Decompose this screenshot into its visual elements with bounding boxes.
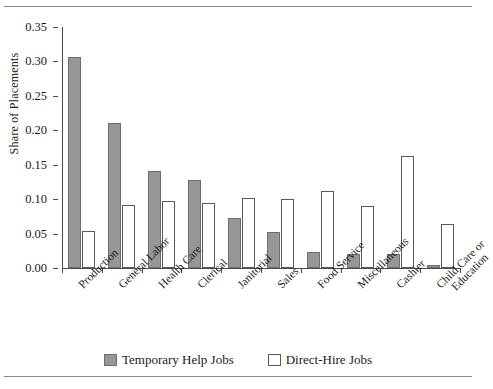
bar-direct[interactable] bbox=[82, 231, 95, 268]
bar-direct[interactable] bbox=[281, 199, 294, 268]
legend-swatch-direct bbox=[268, 354, 281, 366]
y-tick-mark bbox=[53, 96, 58, 97]
bar-group bbox=[380, 14, 420, 268]
y-tick-mark bbox=[53, 234, 58, 235]
bar-series-container bbox=[62, 14, 460, 268]
y-tick-label: 0.35 bbox=[25, 21, 47, 34]
y-tick-mark bbox=[53, 165, 58, 166]
y-tick-label: 0.10 bbox=[25, 193, 47, 206]
bottom-divider-rule bbox=[4, 376, 472, 377]
chart-legend: Temporary Help JobsDirect-Hire Jobs bbox=[0, 352, 476, 368]
y-tick-mark bbox=[53, 61, 58, 62]
bar-group bbox=[181, 14, 221, 268]
legend-label: Temporary Help Jobs bbox=[122, 352, 234, 368]
top-divider-rule bbox=[4, 6, 472, 7]
y-axis-ticks: 0.000.050.100.150.200.250.300.35 bbox=[22, 14, 58, 276]
bar-group bbox=[221, 14, 261, 268]
bar-direct[interactable] bbox=[321, 191, 334, 268]
y-tick-mark bbox=[53, 268, 58, 269]
y-tick-label: 0.25 bbox=[25, 90, 47, 103]
y-tick-mark bbox=[53, 27, 58, 28]
bar-direct[interactable] bbox=[361, 206, 374, 268]
y-tick-label: 0.15 bbox=[25, 158, 47, 171]
bar-group bbox=[261, 14, 301, 268]
y-tick-label: 0.20 bbox=[25, 124, 47, 137]
x-tick-mark bbox=[301, 268, 302, 273]
bar-temp[interactable] bbox=[228, 218, 241, 268]
legend-swatch-temp bbox=[104, 354, 117, 366]
bar-direct[interactable] bbox=[441, 224, 454, 268]
bar-temp[interactable] bbox=[427, 265, 440, 268]
y-tick-label: 0.00 bbox=[25, 262, 47, 275]
bar-group bbox=[102, 14, 142, 268]
legend-item[interactable]: Temporary Help Jobs bbox=[104, 352, 234, 368]
y-tick-label: 0.05 bbox=[25, 227, 47, 240]
bar-group bbox=[142, 14, 182, 268]
bar-group bbox=[341, 14, 381, 268]
y-tick-label: 0.30 bbox=[25, 55, 47, 68]
bar-direct[interactable] bbox=[202, 203, 215, 268]
y-axis-title: Share of Placements bbox=[7, 14, 22, 194]
bar-group bbox=[420, 14, 460, 268]
bar-group bbox=[301, 14, 341, 268]
y-tick-mark bbox=[53, 199, 58, 200]
legend-label: Direct-Hire Jobs bbox=[286, 352, 372, 368]
bar-direct[interactable] bbox=[242, 198, 255, 268]
bar-direct[interactable] bbox=[122, 205, 135, 268]
legend-item[interactable]: Direct-Hire Jobs bbox=[268, 352, 372, 368]
bar-temp[interactable] bbox=[68, 57, 81, 268]
x-axis-category-labels: ProductionGeneral LaborHealth CareCleric… bbox=[62, 282, 474, 344]
bar-group bbox=[62, 14, 102, 268]
y-tick-mark bbox=[53, 130, 58, 131]
bar-temp[interactable] bbox=[307, 252, 320, 268]
x-tick-mark bbox=[62, 268, 63, 273]
